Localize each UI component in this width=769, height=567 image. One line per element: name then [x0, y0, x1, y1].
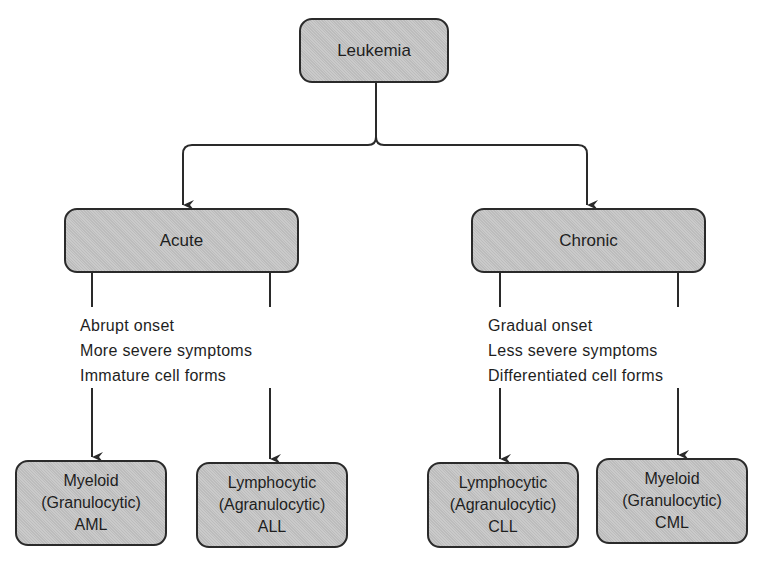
node-all: Lymphocytic (Agranulocytic) ALL — [196, 462, 348, 548]
characteristic: Differentiated cell forms — [488, 363, 663, 388]
characteristic: Abrupt onset — [80, 313, 252, 338]
type-name: Lymphocytic — [228, 472, 316, 494]
chronic-characteristics: Gradual onset Less severe symptoms Diffe… — [488, 313, 663, 388]
type-abbr: AML — [75, 514, 108, 536]
type-name: Myeloid — [644, 468, 699, 490]
node-acute: Acute — [64, 208, 299, 273]
characteristic: More severe symptoms — [80, 338, 252, 363]
node-cml: Myeloid (Granulocytic) CML — [596, 458, 748, 544]
node-label: Chronic — [559, 231, 618, 251]
edge-root-to-acute — [183, 83, 376, 205]
type-subname: (Granulocytic) — [622, 490, 722, 512]
edge-root-to-chronic — [376, 137, 587, 205]
type-abbr: CLL — [488, 516, 517, 538]
characteristic: Less severe symptoms — [488, 338, 663, 363]
type-subname: (Granulocytic) — [41, 492, 141, 514]
type-name: Lymphocytic — [459, 472, 547, 494]
type-subname: (Agranulocytic) — [219, 494, 326, 516]
node-aml: Myeloid (Granulocytic) AML — [15, 460, 167, 546]
type-abbr: ALL — [258, 516, 286, 538]
type-name: Myeloid — [63, 470, 118, 492]
node-leukemia: Leukemia — [299, 18, 449, 83]
node-label: Leukemia — [337, 41, 411, 61]
acute-characteristics: Abrupt onset More severe symptoms Immatu… — [80, 313, 252, 388]
node-chronic: Chronic — [471, 208, 706, 273]
type-subname: (Agranulocytic) — [450, 494, 557, 516]
characteristic: Gradual onset — [488, 313, 663, 338]
node-label: Acute — [160, 231, 203, 251]
type-abbr: CML — [655, 512, 689, 534]
node-cll: Lymphocytic (Agranulocytic) CLL — [427, 462, 579, 548]
characteristic: Immature cell forms — [80, 363, 252, 388]
